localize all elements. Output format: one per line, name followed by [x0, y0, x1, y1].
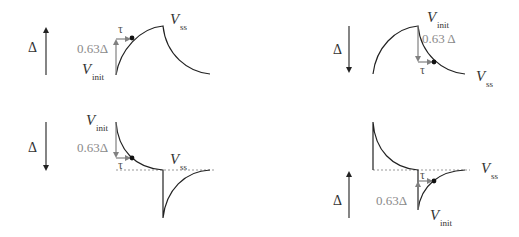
- tau-point: [130, 36, 135, 41]
- panel-bottom-left: Δ V init 0.63Δ V ss τ: [28, 112, 215, 218]
- panel-bottom-right: Δ 0.63Δ V ss V init τ: [333, 122, 499, 228]
- tau-point: [130, 156, 135, 161]
- v-init-label: V init: [82, 61, 105, 82]
- fraction-label: 0.63Δ: [77, 140, 108, 155]
- svg-text:init: init: [437, 20, 450, 30]
- tau-label: τ: [118, 22, 123, 36]
- tau-label: τ: [420, 168, 425, 182]
- delta-label: Δ: [28, 40, 37, 55]
- v-init-label: V init: [86, 112, 109, 133]
- v-init-label: V init: [430, 207, 453, 228]
- svg-text:ss: ss: [486, 79, 494, 89]
- fraction-label: 0.63Δ: [376, 193, 407, 208]
- tau-label: τ: [420, 63, 425, 77]
- v-ss-label: V ss: [481, 160, 499, 181]
- v-ss-label: V ss: [170, 151, 188, 172]
- response-curve: [116, 122, 210, 218]
- panel-top-left: Δ 0.63Δ V init V ss τ: [28, 11, 210, 82]
- v-ss-label: V ss: [476, 68, 494, 89]
- tau-point: [432, 60, 437, 65]
- v-init-label: V init: [427, 9, 450, 30]
- delta-label: Δ: [28, 140, 37, 155]
- delta-label: Δ: [333, 42, 342, 57]
- v-ss-label: V ss: [170, 11, 188, 32]
- response-curve: [116, 26, 210, 75]
- transient-diagram: Δ 0.63Δ V init V ss τ Δ V init 0.63 Δ V …: [0, 0, 519, 237]
- fraction-label: 0.63Δ: [77, 41, 108, 56]
- svg-text:ss: ss: [491, 171, 499, 181]
- tau-point: [432, 179, 437, 184]
- svg-text:init: init: [92, 72, 105, 82]
- tau-label: τ: [118, 158, 123, 172]
- panel-top-right: Δ V init 0.63 Δ V ss τ: [333, 9, 494, 89]
- fraction-label: 0.63 Δ: [422, 31, 456, 46]
- svg-text:init: init: [440, 218, 453, 228]
- delta-label: Δ: [333, 193, 342, 208]
- svg-text:ss: ss: [180, 22, 188, 32]
- svg-text:init: init: [96, 123, 109, 133]
